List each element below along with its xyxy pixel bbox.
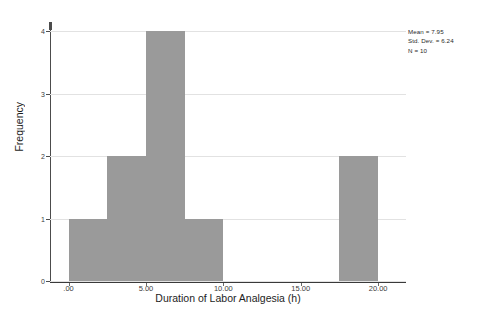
gridline-y-4: 4 <box>50 31 406 32</box>
gridline-y-0: 0 <box>50 281 406 282</box>
y-axis-title: Frequency <box>14 102 28 152</box>
plot-area: 0 1 2 3 4 .00 5.00 10.00 15 <box>50 22 406 281</box>
histogram-bar <box>185 219 224 281</box>
y-tick-mark-4 <box>46 31 50 32</box>
y-tick-label-3: 3 <box>41 90 45 97</box>
y-tick-mark-0 <box>46 281 50 282</box>
histogram-figure: 0 1 2 3 4 .00 5.00 10.00 15 <box>0 0 483 321</box>
y-tick-label-2: 2 <box>41 153 45 160</box>
x-axis-title: Duration of Labor Analgesia (h) <box>50 293 406 305</box>
y-tick-label-1: 1 <box>41 215 45 222</box>
std-dev-label: Std. Dev. = 6.24 <box>408 36 454 45</box>
histogram-bar <box>107 156 146 281</box>
y-axis-line <box>50 22 51 281</box>
sample-size-label: N = 10 <box>408 46 454 55</box>
mean-label: Mean = 7.95 <box>408 27 454 36</box>
y-tick-label-0: 0 <box>41 278 45 285</box>
histogram-bar <box>69 219 108 281</box>
y-axis-arrow-cap <box>49 22 52 30</box>
histogram-bar <box>339 156 378 281</box>
x-tick-label-0: .00 <box>63 285 73 293</box>
x-tick-label-1: 5.00 <box>139 285 154 293</box>
x-tick-label-4: 20.00 <box>369 285 388 293</box>
y-tick-mark-2 <box>46 156 50 157</box>
y-tick-mark-3 <box>46 94 50 95</box>
y-tick-label-4: 4 <box>41 28 45 35</box>
gridline-y-3: 3 <box>50 94 406 95</box>
histogram-bar <box>146 31 185 281</box>
statistics-annotation: Mean = 7.95 Std. Dev. = 6.24 N = 10 <box>408 27 454 55</box>
y-tick-mark-1 <box>46 219 50 220</box>
